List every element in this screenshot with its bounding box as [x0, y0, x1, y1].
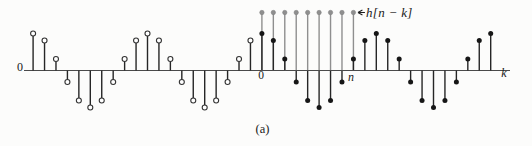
signal-open-marker: [156, 38, 161, 43]
signal-filled-marker: [442, 98, 447, 103]
signal-filled-marker: [351, 57, 356, 62]
window-marker: [351, 10, 355, 14]
signal-filled-marker: [454, 79, 459, 84]
signal-open-marker: [168, 57, 173, 62]
signal-open-marker: [42, 38, 47, 43]
window-marker: [305, 10, 309, 14]
window-marker: [271, 10, 275, 14]
signal-filled-marker: [317, 105, 322, 110]
k-axis-label: k: [497, 67, 511, 79]
signal-open-marker: [53, 57, 58, 62]
annotation-arrow: [358, 10, 365, 15]
signal-open-marker: [237, 57, 242, 62]
window-marker: [283, 10, 287, 14]
signal-open-marker: [248, 38, 253, 43]
signal-open-marker: [145, 31, 150, 36]
signal-filled-marker: [465, 57, 470, 62]
signal-filled-marker: [408, 79, 413, 84]
window-marker: [340, 10, 344, 14]
signal-filled-marker: [477, 38, 482, 43]
signal-open-marker: [76, 98, 81, 103]
signal-open-marker: [179, 79, 184, 84]
signal-open-marker: [202, 105, 207, 110]
signal-filled-marker: [362, 38, 367, 43]
window-marker: [317, 10, 321, 14]
signal-open-marker: [99, 98, 104, 103]
signal-filled-marker: [282, 57, 287, 62]
window-marker: [328, 10, 332, 14]
signal-open-marker: [88, 105, 93, 110]
signal-open-marker: [191, 98, 196, 103]
signal-filled-marker: [385, 38, 390, 43]
signal-open-marker: [111, 79, 116, 84]
window-marker: [260, 10, 264, 14]
subfigure-caption: (a): [246, 123, 279, 136]
signal-filled-marker: [420, 98, 425, 103]
signal-filled-marker: [328, 98, 333, 103]
signal-open-marker: [31, 31, 36, 36]
window-marker: [294, 10, 298, 14]
k-equals-zero-label: 0: [255, 70, 267, 82]
signal-filled-marker: [397, 57, 402, 62]
axis-origin-zero-label: 0: [14, 61, 26, 73]
signal-filled-marker: [305, 98, 310, 103]
signal-filled-marker: [259, 31, 264, 36]
h-n-minus-k-annotation: h[n − k]: [366, 6, 413, 19]
signal-open-marker: [134, 38, 139, 43]
signal-filled-marker: [488, 31, 493, 36]
signal-open-marker: [122, 57, 127, 62]
signal-open-marker: [65, 79, 70, 84]
convolution-figure: 0 0 n k h[n − k] (a): [0, 0, 532, 146]
signal-open-marker: [214, 98, 219, 103]
signal-filled-marker: [374, 31, 379, 36]
signal-open-marker: [225, 79, 230, 84]
n-position-label: n: [344, 71, 358, 83]
signal-filled-marker: [271, 38, 276, 43]
signal-filled-marker: [294, 79, 299, 84]
signal-filled-marker: [431, 105, 436, 110]
